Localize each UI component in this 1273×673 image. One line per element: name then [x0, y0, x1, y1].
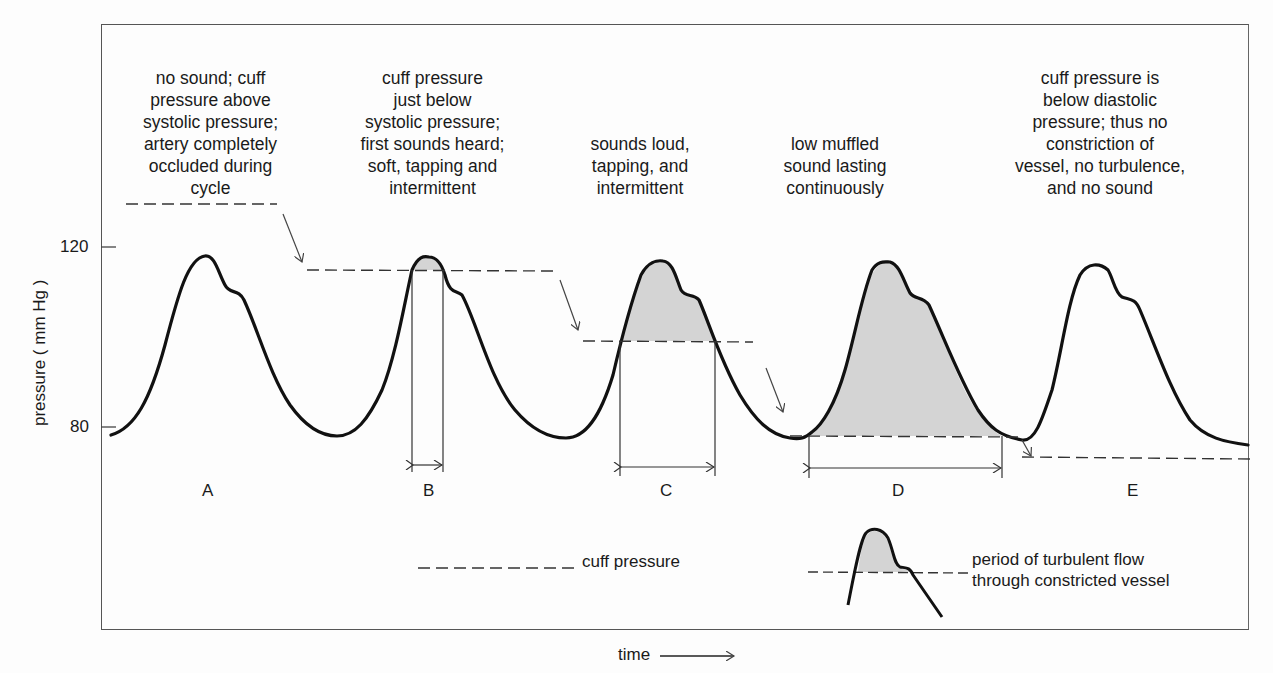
pressure-waveform: [111, 256, 1248, 445]
y-axis-label: pressure ( mm Hg ): [30, 280, 50, 426]
phase-label-a: A: [202, 481, 213, 501]
legend-turbulent-flow: period of turbulent flow through constri…: [972, 549, 1170, 591]
note-phase-c: sounds loud, tapping, and intermittent: [575, 133, 705, 199]
tick-label-80: 80: [70, 417, 89, 437]
tick-label-120: 120: [60, 237, 88, 257]
phase-label-c: C: [660, 481, 672, 501]
cuff-line-b: [307, 270, 557, 271]
arrow-a-to-b-icon: [283, 214, 302, 262]
arrow-d-to-e-icon: [1022, 440, 1031, 456]
legend-waveform-icon: [848, 529, 942, 617]
turbulent-flow-shading: [412, 257, 1002, 572]
legend-cuff-pressure: cuff pressure: [582, 551, 680, 572]
note-phase-a: no sound; cuff pressure above systolic p…: [118, 67, 303, 199]
phase-label-e: E: [1127, 481, 1138, 501]
phase-label-b: B: [423, 481, 434, 501]
cuff-line-c: [583, 341, 753, 342]
arrow-c-to-d-icon: [766, 368, 783, 412]
note-phase-e: cuff pressure is below diastolic pressur…: [1000, 67, 1200, 199]
note-phase-b: cuff pressure just below systolic pressu…: [345, 67, 520, 199]
phase-label-d: D: [892, 481, 904, 501]
cuff-line-d: [790, 436, 1020, 437]
arrow-b-to-c-icon: [560, 280, 578, 330]
legend-turbulent-dash-icon: [808, 572, 968, 573]
cuff-line-e: [1022, 457, 1250, 459]
note-phase-d: low muffled sound lasting continuously: [745, 133, 925, 199]
x-axis-label: time: [618, 645, 650, 665]
duration-arrows: [413, 465, 1001, 468]
